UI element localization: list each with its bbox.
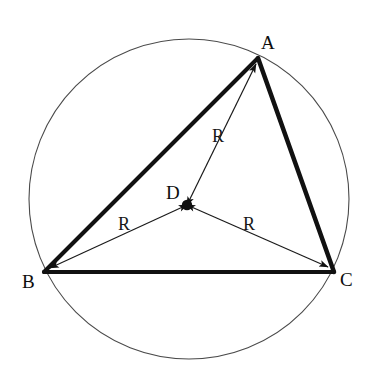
vertex-label-a: A	[261, 33, 275, 52]
vertex-label-b: B	[22, 272, 35, 291]
radius-label-da: R	[212, 127, 224, 145]
vertex-label-c: C	[340, 270, 353, 289]
radius-line-DC	[187, 205, 328, 267]
circumcircle	[29, 39, 349, 359]
geometry-canvas	[0, 0, 374, 379]
side-AB	[44, 58, 258, 272]
center-point-dot	[182, 200, 192, 210]
geometry-figure: A B C D R R R	[0, 0, 374, 379]
center-label-d: D	[166, 183, 180, 202]
radius-label-db: R	[118, 215, 130, 233]
side-CA	[258, 58, 334, 272]
radius-label-dc: R	[243, 215, 255, 233]
